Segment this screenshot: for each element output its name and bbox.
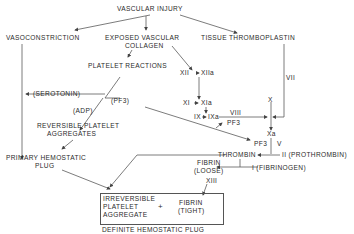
factor-xa: Xa — [267, 130, 276, 138]
node-adp: (ADP) — [73, 107, 93, 115]
factor-pf3-top: PF3 — [227, 119, 240, 127]
node-prothrombin: II (PROTHROMBIN) — [282, 151, 347, 159]
factor-vii: VII — [286, 74, 295, 82]
node-tissue-thromboplastin: TISSUE THROMBOPLASTIN — [201, 34, 295, 42]
node-primary-plug-line2: PLUG — [35, 162, 54, 170]
node-fibrin-tight-line1: FIBRIN — [179, 199, 203, 207]
factor-ix: IX — [194, 113, 201, 121]
factor-xi: XI — [183, 99, 190, 107]
node-fibrin-tight-line2: (TIGHT) — [178, 207, 205, 215]
factor-ixa: IXa — [208, 113, 219, 121]
node-serotonin: (SEROTONIN) — [33, 90, 80, 98]
node-vasoconstriction: VASOCONSTRICTION — [6, 34, 80, 42]
node-definite-plug: DEFINITE HEMOSTATIC PLUG — [102, 226, 204, 234]
factor-x: X — [268, 96, 273, 104]
factor-xiii: XIII — [206, 177, 217, 185]
node-exposed-collagen-line2: COLLAGEN — [125, 42, 164, 50]
node-reversible-line1: REVERSIBLE PLATELET — [37, 122, 119, 130]
node-platelet-reactions: PLATELET REACTIONS — [88, 62, 167, 70]
factor-xii: XII — [180, 69, 189, 77]
factor-xia: XIa — [201, 99, 212, 107]
node-irreversible-line3: AGGREGATE — [103, 211, 147, 219]
node-vascular-injury: VASCULAR INJURY — [117, 5, 183, 13]
node-fibrin-loose-line1: FIBRIN — [197, 159, 221, 167]
node-thrombin: THROMBIN — [218, 151, 256, 159]
node-fibrinogen: I (FIBRINOGEN) — [252, 164, 306, 172]
factor-pf3-right: PF3 — [254, 140, 267, 148]
factor-viii: VIII — [230, 109, 241, 117]
plus-sign: + — [158, 203, 163, 211]
factor-v: V — [277, 140, 282, 148]
node-pf3-mid: (PF3) — [111, 97, 129, 105]
node-fibrin-loose-line2: (LOOSE) — [194, 167, 224, 175]
node-irreversible-line2: PLATELET — [103, 203, 138, 211]
node-irreversible-line1: IRREVERSIBLE — [103, 195, 155, 203]
node-exposed-collagen-line1: EXPOSED VASCULAR — [105, 34, 179, 42]
node-reversible-line2: AGGREGATES — [47, 130, 96, 138]
node-primary-plug-line1: PRIMARY HEMOSTATIC — [6, 154, 86, 162]
factor-xiia: XIIa — [201, 69, 214, 77]
